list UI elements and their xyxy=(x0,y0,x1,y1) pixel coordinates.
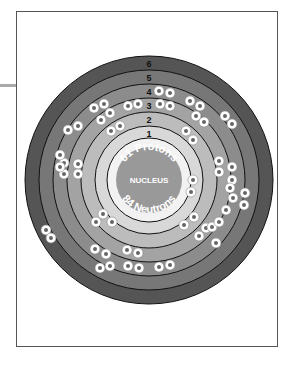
shell-label-1: 1 xyxy=(146,129,151,139)
shell-label-5: 5 xyxy=(146,73,151,83)
shell-label-2: 2 xyxy=(146,115,151,125)
atom-diagram: 6 5 4 3 2 1 61 Protons NUCLEUS 84 Neutro… xyxy=(0,0,294,365)
shell-label-3: 3 xyxy=(146,101,151,111)
nucleus-label: NUCLEUS xyxy=(130,176,169,185)
shell-label-4: 4 xyxy=(146,87,151,97)
shell-label-6: 6 xyxy=(146,59,151,69)
